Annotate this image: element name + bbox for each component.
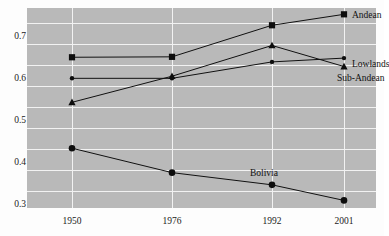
- x-tick-1976: 1976: [150, 216, 194, 226]
- data-point: [169, 169, 176, 176]
- data-point: [269, 182, 276, 189]
- series-line: [72, 45, 344, 102]
- data-point: [269, 22, 275, 28]
- series-lowlands: [70, 56, 346, 81]
- data-point: [270, 60, 274, 64]
- series-line: [72, 58, 344, 78]
- data-point: [268, 42, 275, 49]
- data-point: [341, 11, 347, 17]
- series-line: [72, 14, 344, 57]
- series-bolivia: [69, 145, 348, 204]
- series-line: [72, 148, 344, 200]
- series-label-andean: Andean: [352, 10, 382, 20]
- data-point: [69, 145, 76, 152]
- series-andean: [69, 11, 347, 60]
- series-sub-andean: [68, 42, 347, 105]
- data-point: [341, 197, 348, 204]
- data-point: [342, 56, 346, 60]
- data-point: [69, 54, 75, 60]
- x-tick-1992: 1992: [250, 216, 294, 226]
- series-label-sub-andean: Sub-Andean: [337, 73, 385, 83]
- series-label-bolivia: Bolivia: [250, 168, 278, 178]
- series-label-lowlands: Lowlands: [352, 59, 389, 69]
- x-tick-2001: 2001: [322, 216, 366, 226]
- data-point: [70, 76, 74, 80]
- x-tick-1950: 1950: [50, 216, 94, 226]
- data-point: [169, 54, 175, 60]
